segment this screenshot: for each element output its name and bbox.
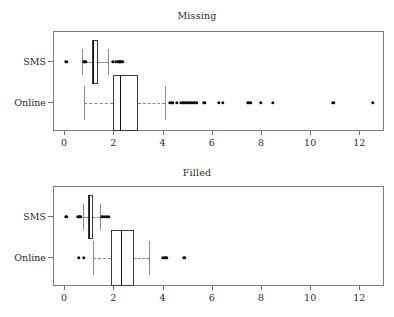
whisker-high [134,258,149,259]
panel-missing: Missing 024681012 SMSOnline [0,0,394,158]
y-tick [48,61,53,62]
whisker-high [138,103,165,104]
whisker-cap-low [93,241,94,275]
plot-content-missing [54,32,383,130]
outlier-point [65,60,68,63]
x-tick-label: 0 [61,292,67,303]
outlier-point [77,256,80,259]
whisker-cap-low [84,86,85,120]
x-tick-label: 4 [159,292,165,303]
whisker-cap-high [165,86,166,120]
x-tick-label: 12 [353,137,365,148]
plot-content-filled [54,187,383,285]
outlier-point [202,101,205,104]
median-line [93,40,95,84]
x-tick [113,131,114,135]
x-tick [64,131,65,135]
y-tick-label-online: Online [14,97,46,108]
x-tick [212,131,213,135]
y-tick [48,216,53,217]
x-tick-label: 10 [304,137,316,148]
x-tick-label: 10 [304,292,316,303]
plot-area-missing [53,31,384,131]
outlier-point [165,256,168,259]
outlier-point [170,101,173,104]
outlier-point [183,256,186,259]
outlier-point [121,60,124,63]
y-tick-label-online: Online [14,252,46,263]
x-tick [310,131,311,135]
outlier-point [259,101,262,104]
x-tick-label: 0 [61,137,67,148]
median-line [89,195,91,239]
x-tick [64,286,65,290]
outlier-point [249,101,252,104]
boxplot-figure: Missing 024681012 SMSOnline Filled 02468… [0,0,394,317]
median-line [120,75,122,131]
panel-title-missing: Missing [0,10,394,21]
outlier-point [107,215,110,218]
outlier-point [332,101,335,104]
x-tick [113,286,114,290]
x-tick-label: 6 [209,137,215,148]
outlier-point [271,101,274,104]
whisker-cap-high [149,241,150,275]
outlier-point [221,101,224,104]
median-line [121,230,123,286]
x-tick [310,286,311,290]
x-tick [359,131,360,135]
x-tick [261,131,262,135]
x-tick [359,286,360,290]
y-tick-label-sms: SMS [23,211,46,222]
panel-title-filled: Filled [0,167,394,178]
x-tick [261,286,262,290]
whisker-cap-high [108,49,109,75]
outlier-point [84,60,87,63]
x-tick [163,131,164,135]
x-tick-label: 12 [353,292,365,303]
y-tick [48,257,53,258]
outlier-point [195,101,198,104]
panel-filled: Filled 024681012 SMSOnline [0,158,394,317]
y-tick [48,102,53,103]
plot-area-filled [53,186,384,286]
x-tick-label: 2 [110,137,116,148]
y-tick-label-sms: SMS [23,56,46,67]
x-tick [163,286,164,290]
x-tick-label: 8 [258,137,264,148]
whisker-cap-low [83,204,84,230]
whisker-high [98,62,108,63]
whisker-low [93,258,110,259]
x-tick [212,286,213,290]
x-tick-label: 8 [258,292,264,303]
outlier-point [371,101,374,104]
x-tick-label: 6 [209,292,215,303]
outlier-point [82,256,85,259]
x-tick-label: 4 [159,137,165,148]
outlier-point [65,215,68,218]
box-online [113,75,138,131]
x-tick-label: 2 [110,292,116,303]
whisker-low [84,103,113,104]
